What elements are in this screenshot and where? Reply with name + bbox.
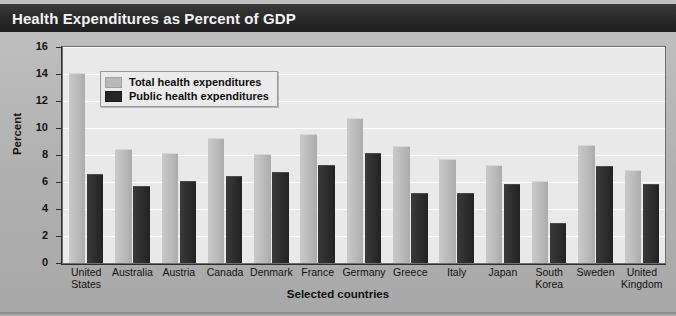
bar-group xyxy=(387,47,433,263)
bar-public xyxy=(272,172,289,263)
bar-public xyxy=(87,174,104,263)
chart-page: Health Expenditures as Percent of GDP 02… xyxy=(0,0,676,316)
bar-total xyxy=(486,165,503,263)
y-axis-tick xyxy=(56,182,62,183)
legend-item-total: Total health expenditures xyxy=(105,75,269,89)
bar-total xyxy=(347,118,364,263)
y-axis-tick xyxy=(56,101,62,102)
chart-legend: Total health expenditures Public health … xyxy=(100,71,278,107)
bar-public xyxy=(643,184,660,263)
bar-group xyxy=(341,47,387,263)
bar-total xyxy=(532,181,549,263)
bar-total xyxy=(115,149,132,263)
bar-group xyxy=(295,47,341,263)
bar-total xyxy=(300,134,317,263)
bar-group xyxy=(526,47,572,263)
y-axis-label: 14 xyxy=(8,67,48,79)
bar-public xyxy=(180,181,197,263)
bar-total xyxy=(208,138,225,263)
bar-public xyxy=(411,193,428,263)
legend-item-public: Public health expenditures xyxy=(105,89,269,103)
y-axis-tick xyxy=(56,47,62,48)
y-axis-tick xyxy=(56,128,62,129)
legend-label-public: Public health expenditures xyxy=(129,90,269,102)
legend-swatch-public-icon xyxy=(105,91,122,102)
bar-public xyxy=(318,165,335,263)
y-axis-tick xyxy=(56,236,62,237)
y-axis-label: 16 xyxy=(8,40,48,52)
legend-label-total: Total health expenditures xyxy=(129,76,261,88)
y-axis-title: Percent xyxy=(11,89,23,179)
bar-group xyxy=(480,47,526,263)
x-axis-line xyxy=(61,264,666,265)
bar-public xyxy=(226,176,243,263)
legend-swatch-total-icon xyxy=(105,77,122,88)
bar-public xyxy=(457,193,474,263)
bar-public xyxy=(550,223,567,263)
x-axis-label: United Kingdom xyxy=(613,267,671,290)
y-axis-label: 4 xyxy=(8,202,48,214)
bar-total xyxy=(69,73,86,263)
bar-group xyxy=(433,47,479,263)
bar-public xyxy=(365,153,382,263)
bar-total xyxy=(625,170,642,263)
bar-public xyxy=(133,186,150,263)
y-axis-tick xyxy=(56,74,62,75)
y-axis-tick xyxy=(56,209,62,210)
bar-group xyxy=(619,47,665,263)
title-bar: Health Expenditures as Percent of GDP xyxy=(0,4,676,32)
bar-total xyxy=(162,153,179,263)
bar-total xyxy=(439,159,456,263)
y-axis-tick xyxy=(56,155,62,156)
bar-public xyxy=(504,184,521,263)
bar-group xyxy=(572,47,618,263)
page-title: Health Expenditures as Percent of GDP xyxy=(12,10,296,27)
bar-total xyxy=(393,146,410,263)
bar-public xyxy=(596,166,613,263)
bar-total xyxy=(254,154,271,263)
y-axis-label: 2 xyxy=(8,229,48,241)
y-axis-label: 0 xyxy=(8,256,48,268)
bottom-rule xyxy=(0,312,676,314)
bar-total xyxy=(578,145,595,263)
